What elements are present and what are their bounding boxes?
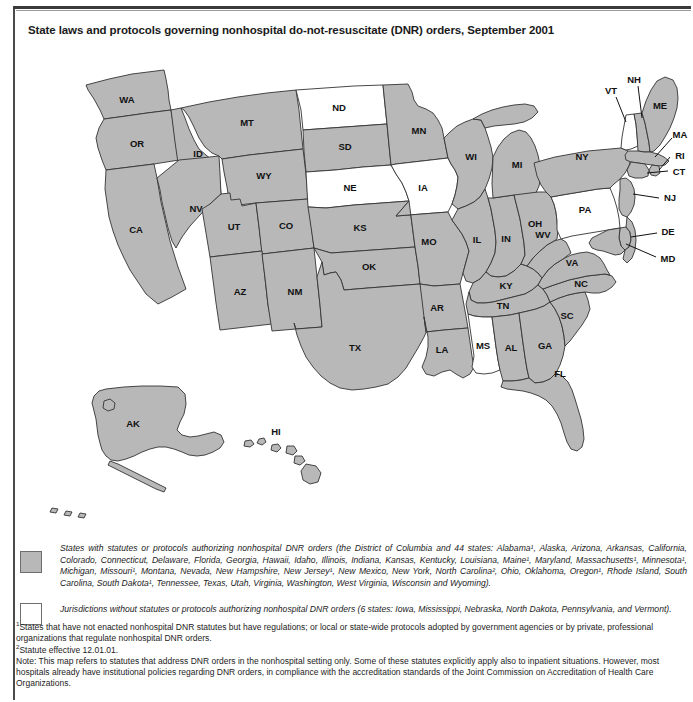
state-SD[interactable] [303, 124, 391, 172]
footnote-1-text: States that have not enacted nonhospital… [16, 622, 653, 643]
map-label-RI: RI [675, 150, 685, 161]
footnotes-section: 1States that have not enacted nonhospita… [16, 622, 688, 690]
legend-label-unshaded: Jurisdictions without statutes or protoc… [60, 595, 691, 616]
map-label-MA: MA [673, 129, 688, 140]
state-CT[interactable] [627, 162, 649, 178]
state-WY[interactable] [222, 149, 308, 206]
footnote-2: 2Statute effective 12.01.01. [16, 645, 688, 656]
map-label-VT: VT [605, 85, 617, 96]
aleutian-islands [50, 461, 166, 518]
state-NJ[interactable] [619, 178, 635, 217]
state-CO[interactable] [256, 199, 314, 254]
map-label-DE: DE [661, 226, 674, 237]
state-MN[interactable] [383, 84, 448, 165]
frame-top-border [13, 6, 691, 9]
infographic-page: State laws and protocols governing nonho… [0, 0, 693, 702]
state-RI[interactable] [649, 165, 660, 176]
state-OR[interactable] [96, 110, 179, 170]
footnote-1: 1States that have not enacted nonhospita… [16, 622, 688, 645]
map-label-MD: MD [661, 253, 676, 264]
legend: States with statutes or protocols author… [14, 543, 691, 625]
page-title: State laws and protocols governing nonho… [28, 24, 554, 36]
state-AK[interactable] [92, 386, 224, 461]
state-ND[interactable] [296, 85, 387, 130]
map-label-NJ: NJ [664, 192, 676, 203]
state-FL[interactable] [501, 373, 584, 451]
map-label-CT: CT [673, 166, 686, 177]
state-NY[interactable] [534, 148, 631, 197]
state-NM[interactable] [262, 248, 322, 331]
state-HI[interactable] [244, 438, 321, 484]
state-MI-up[interactable] [473, 104, 538, 128]
state-KS[interactable] [308, 201, 415, 253]
state-NE[interactable] [306, 165, 409, 208]
leader-line-VT [616, 97, 626, 122]
frame-top-inner-line [16, 10, 691, 11]
footnote-2-text: Statute effective 12.01.01. [19, 645, 118, 655]
map-label-HI: HI [271, 426, 281, 437]
us-choropleth-map: WA OR CA ID NV MT WY UT CO AZ NM ND SD N… [14, 52, 691, 539]
us-map-svg: WA OR CA ID NV MT WY UT CO AZ NM ND SD N… [14, 52, 691, 539]
legend-row-unshaded: Jurisdictions without statutes or protoc… [14, 595, 691, 625]
legend-swatch-shaded [20, 551, 42, 573]
legend-label-shaded: States with statutes or protocols author… [60, 543, 691, 589]
map-note: Note: This map refers to statutes that a… [16, 656, 688, 690]
state-MI[interactable] [492, 130, 541, 199]
leader-line-NJ [633, 194, 659, 198]
legend-row-shaded: States with statutes or protocols author… [14, 543, 691, 589]
state-AR[interactable] [420, 284, 468, 332]
map-label-NH: NH [627, 74, 641, 85]
